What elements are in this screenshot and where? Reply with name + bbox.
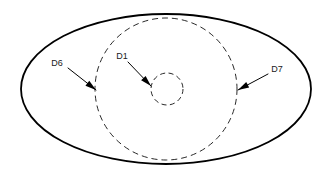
callout-label-d1: D1 [116,51,128,61]
callout-label-d7: D7 [271,64,283,74]
diagram-canvas: D6 D1 D7 [0,0,324,178]
dimension-diagram: D6 D1 D7 [0,0,324,178]
canvas-background [0,0,324,178]
callout-label-d6: D6 [51,58,63,68]
